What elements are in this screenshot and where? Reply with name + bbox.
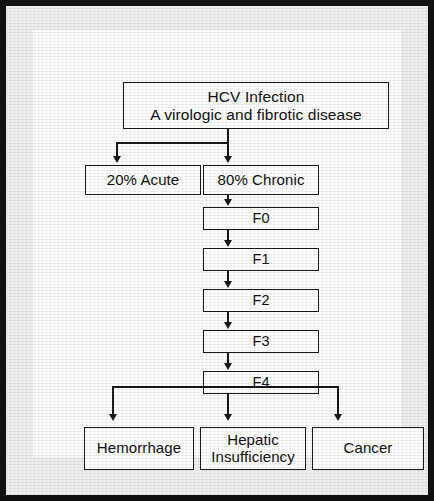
figure-frame: HCV Infection A virologic and fibrotic d…: [0, 0, 434, 501]
arrowhead-f2-to-f3: [224, 322, 232, 329]
arrowhead-title-to-chronic: [224, 156, 232, 163]
node-stage-f3-label: F3: [252, 333, 269, 349]
node-stage-f1: F1: [203, 248, 319, 271]
arrowhead-f1-to-f2: [224, 281, 232, 288]
node-hcv-infection: HCV Infection A virologic and fibrotic d…: [123, 82, 389, 129]
edge-f4-to-hemorrhage: [112, 386, 114, 415]
node-chronic: 80% Chronic: [203, 165, 319, 195]
arrowhead-chronic-to-f0: [224, 199, 232, 206]
edge-outcomes-bus: [112, 386, 338, 388]
node-stage-f4-label: F4: [252, 374, 269, 390]
node-chronic-label: 80% Chronic: [218, 172, 305, 189]
arrowhead-f0-to-f1: [224, 240, 232, 247]
node-stage-f2: F2: [203, 289, 319, 312]
arrowhead-f4-to-hepatic-insufficiency: [224, 414, 232, 421]
node-acute-label: 20% Acute: [107, 172, 180, 189]
edge-title-stem: [227, 129, 229, 143]
edge-f4-stem: [227, 394, 229, 415]
node-hcv-infection-line2: A virologic and fibrotic disease: [150, 106, 362, 123]
node-stage-f0: F0: [203, 207, 319, 230]
edge-title-to-acute: [116, 142, 118, 157]
arrowhead-f3-to-f4: [224, 363, 232, 370]
node-cancer: Cancer: [312, 427, 424, 470]
arrowhead-title-to-acute: [113, 156, 121, 163]
arrowhead-f4-to-hemorrhage: [109, 414, 117, 421]
diagram-canvas: HCV Infection A virologic and fibrotic d…: [33, 30, 401, 457]
node-hcv-infection-line1: HCV Infection: [150, 88, 362, 105]
node-hemorrhage-line1: Hemorrhage: [97, 440, 181, 457]
edge-f4-to-cancer: [337, 386, 339, 415]
node-hepatic-insufficiency-line1: Hepatic: [211, 432, 295, 449]
node-acute: 20% Acute: [85, 165, 201, 195]
arrowhead-f4-to-cancer: [334, 414, 342, 421]
node-stage-f4: F4: [203, 371, 319, 394]
node-cancer-line1: Cancer: [344, 440, 393, 457]
node-hepatic-insufficiency-line2: Insufficiency: [211, 449, 295, 466]
node-stage-f1-label: F1: [252, 251, 269, 267]
edge-title-to-chronic: [227, 142, 229, 157]
node-stage-f3: F3: [203, 330, 319, 353]
node-hepatic-insufficiency: Hepatic Insufficiency: [200, 427, 306, 470]
node-stage-f2-label: F2: [252, 292, 269, 308]
node-stage-f0-label: F0: [252, 210, 269, 226]
node-hemorrhage: Hemorrhage: [84, 427, 194, 470]
edge-title-bus: [116, 142, 228, 144]
